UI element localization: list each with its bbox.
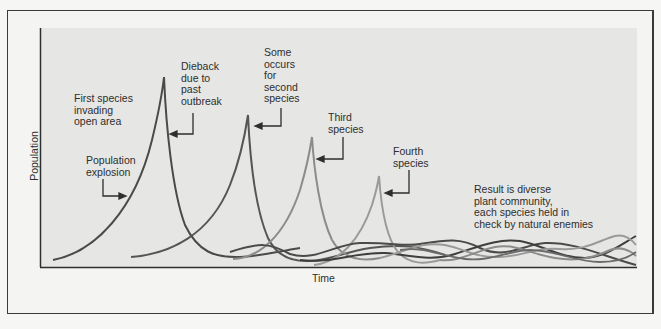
- annotation-result: Result is diverse plant community, each …: [474, 184, 593, 230]
- curve-species-3: [233, 137, 380, 259]
- x-axis-label: Time: [312, 272, 335, 284]
- annotation-third-species: Third species: [328, 112, 364, 135]
- arrow-fourth-species: [385, 170, 409, 196]
- arrow-third-species: [317, 137, 343, 162]
- y-axis-label: Population: [28, 126, 40, 186]
- axes: [40, 28, 637, 268]
- arrow-population-explosion: [103, 179, 126, 199]
- annotation-second-species: Some occurs for second species: [264, 47, 300, 105]
- annotation-population-explosion: Population explosion: [86, 155, 136, 178]
- annotation-dieback: Dieback due to past outbreak: [181, 61, 222, 107]
- curve-species-4: [314, 176, 440, 265]
- arrow-dieback: [170, 113, 193, 137]
- annotation-fourth-species: Fourth species: [393, 146, 429, 169]
- arrow-second-species: [255, 108, 281, 129]
- curve-species-2: [131, 115, 445, 261]
- annotation-first-species: First species invading open area: [74, 93, 133, 128]
